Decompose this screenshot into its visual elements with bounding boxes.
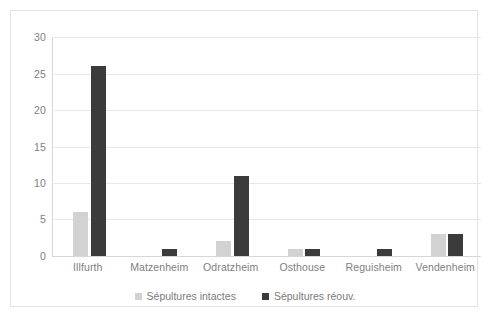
y-tick-label: 30 — [16, 31, 46, 43]
bar-reouv[interactable] — [234, 176, 249, 256]
bar-group — [409, 37, 481, 256]
bar-reouv[interactable] — [448, 234, 463, 256]
bar-intactes[interactable] — [73, 212, 88, 256]
chart-frame: 30 25 20 15 10 5 0 — [10, 10, 478, 307]
y-tick-label: 10 — [16, 177, 46, 189]
y-tick-label: 20 — [16, 104, 46, 116]
bar-group — [195, 37, 267, 256]
bar-intactes[interactable] — [216, 241, 231, 256]
bar-group — [124, 37, 196, 256]
bar-group — [338, 37, 410, 256]
bar-reouv[interactable] — [91, 66, 106, 256]
chart-legend: Sépultures intactes Sépultures réouv. — [11, 290, 479, 302]
x-tick-label-illfurth: Illfurth — [52, 261, 124, 273]
legend-swatch-icon — [262, 293, 269, 300]
bar-reouv[interactable] — [377, 249, 392, 256]
x-tick-label-matzenheim: Matzenheim — [124, 261, 196, 273]
x-tick-label-reguisheim: Reguisheim — [338, 261, 410, 273]
bar-reouv[interactable] — [305, 249, 320, 256]
x-axis-labels: Illfurth Matzenheim Odratzheim Osthouse … — [52, 261, 481, 279]
y-tick-label: 25 — [16, 68, 46, 80]
x-tick-label-osthouse: Osthouse — [267, 261, 339, 273]
y-axis-labels: 30 25 20 15 10 5 0 — [11, 37, 46, 256]
y-tick-label: 5 — [16, 213, 46, 225]
y-tick-label: 15 — [16, 141, 46, 153]
bar-intactes[interactable] — [288, 249, 303, 256]
legend-label: Sépultures réouv. — [274, 290, 356, 302]
y-tick-label: 0 — [16, 250, 46, 262]
bar-intactes[interactable] — [431, 234, 446, 256]
x-tick-label-vendenheim: Vendenheim — [409, 261, 481, 273]
legend-item-sepultures-reouv[interactable]: Sépultures réouv. — [262, 290, 356, 302]
legend-item-sepultures-intactes[interactable]: Sépultures intactes — [135, 290, 236, 302]
legend-swatch-icon — [135, 293, 142, 300]
legend-label: Sépultures intactes — [147, 290, 236, 302]
x-tick-label-odratzheim: Odratzheim — [195, 261, 267, 273]
gridline-0-baseline — [52, 256, 481, 257]
bar-reouv[interactable] — [162, 249, 177, 256]
plot-area — [52, 37, 481, 256]
bar-group — [52, 37, 124, 256]
bar-group — [267, 37, 339, 256]
